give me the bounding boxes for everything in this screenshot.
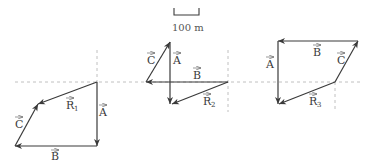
scale-bar: 100 m — [172, 8, 204, 33]
label-c-1: C — [15, 118, 23, 131]
label-a-2: A — [172, 54, 182, 67]
label-b-1: B — [51, 150, 59, 163]
diagram-canvas: 100 m A B C R 1 A B C R 2 — [0, 0, 370, 167]
diagram-1 — [15, 82, 97, 146]
label-b-2: B — [193, 69, 201, 82]
label-r2-subscript: 2 — [211, 101, 215, 109]
label-a-1: A — [98, 106, 108, 119]
vector-r3 — [279, 82, 335, 104]
vector-addition-diagram: 100 m A B C R 1 A B C R 2 — [0, 0, 370, 167]
scale-bar-label: 100 m — [172, 22, 204, 33]
diagram-3-labels: A B C R 3 — [265, 45, 345, 109]
label-c-3: C — [337, 54, 345, 67]
label-a-3: A — [265, 58, 275, 71]
label-r1-subscript: 1 — [74, 105, 78, 113]
label-c-2: C — [147, 54, 155, 67]
label-b-3: B — [313, 46, 321, 59]
scale-bar-bracket — [174, 8, 199, 15]
diagram-2 — [146, 42, 228, 104]
label-r3-subscript: 3 — [317, 101, 321, 109]
diagram-1-labels: A B C R 1 — [15, 98, 108, 163]
vector-r2 — [172, 82, 228, 104]
